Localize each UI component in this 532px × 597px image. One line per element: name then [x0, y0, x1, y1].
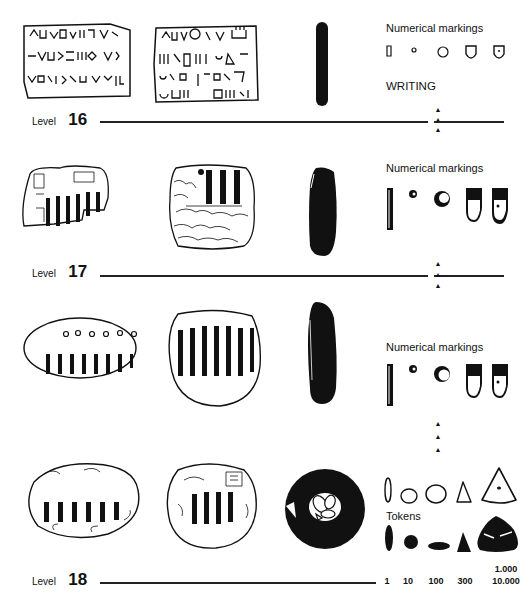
token-value-1000: 1.000: [488, 564, 524, 574]
tablet-writing-2: [152, 24, 260, 104]
arrow-18c: ▲: [434, 446, 442, 453]
bulla-fragment-17: [24, 164, 116, 236]
complex-tokens-row: [384, 514, 530, 554]
level-number: 18: [68, 570, 87, 589]
level-word: Level: [32, 576, 56, 587]
arrow-18b: ▲: [434, 433, 442, 440]
token-value-300: 300: [454, 576, 476, 586]
level-word: Level: [32, 268, 56, 279]
token-value-10: 10: [400, 576, 416, 586]
level-17-line: [100, 275, 428, 277]
numerical-markings-heading-16: Numerical markings: [386, 22, 483, 34]
tablet-writing-1: [22, 22, 134, 100]
bulla-impressed-18a: [166, 308, 262, 408]
numerical-marks-row-16: [386, 42, 526, 62]
arrow-18a: ▲: [434, 420, 442, 427]
level-18-label: Level 18: [32, 570, 87, 590]
level-18-line: [100, 582, 376, 584]
level-number: 16: [68, 110, 87, 129]
bulla-cross-section-18: [282, 466, 368, 552]
arrow-17b: ▲: [434, 271, 442, 278]
writing-heading: WRITING: [386, 80, 436, 92]
bulla-oval-18b: [24, 460, 142, 542]
arrow-17a: ▲: [434, 260, 442, 267]
bulla-side-view-17: [306, 166, 340, 258]
numerical-marks-row-17: [386, 186, 526, 236]
token-value-1: 1: [383, 576, 391, 586]
numerical-markings-heading-18: Numerical markings: [386, 341, 483, 353]
bulla-side-view-16: [316, 22, 328, 106]
bulla-oval-18a: [22, 316, 140, 380]
level-number: 17: [68, 262, 87, 281]
token-value-100: 100: [425, 576, 447, 586]
arrow-17c: ▲: [434, 282, 442, 289]
level-16-line: [100, 121, 428, 123]
token-value-10000: 10.000: [486, 576, 526, 586]
bulla-impressed-18b: [164, 460, 260, 552]
level-word: Level: [32, 116, 56, 127]
numerical-markings-heading-17: Numerical markings: [386, 162, 483, 174]
numerical-marks-row-18: [386, 362, 526, 412]
level-17-line-right: [434, 275, 504, 277]
bulla-impressed-17: [166, 162, 256, 252]
level-16-line-right: [434, 121, 504, 123]
level-16-label: Level 16: [32, 110, 87, 130]
level-17-label: Level 17: [32, 262, 87, 282]
arrow-16c: ▲: [434, 126, 442, 133]
plain-tokens-row: [384, 466, 530, 506]
bulla-side-view-18a: [306, 300, 340, 406]
arrow-16a: ▲: [434, 106, 442, 113]
